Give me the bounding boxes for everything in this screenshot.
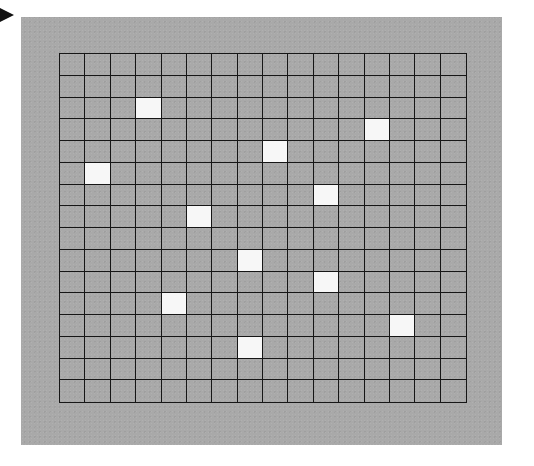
grid-cell — [85, 272, 110, 294]
grid-cell — [85, 228, 110, 250]
grid-cell — [365, 250, 390, 272]
grid-cell — [187, 250, 212, 272]
grid-cell — [288, 359, 313, 381]
grid-cell — [60, 380, 85, 402]
grid-cell — [111, 250, 136, 272]
arrow-right-icon — [0, 8, 14, 22]
grid-cell — [390, 250, 415, 272]
grid-cell — [238, 206, 263, 228]
grid-cell — [288, 141, 313, 163]
grid-cell — [111, 98, 136, 120]
grid-cell — [187, 141, 212, 163]
grid-cell-lit — [238, 337, 263, 359]
grid-cell — [238, 228, 263, 250]
grid-cell — [339, 119, 364, 141]
grid-cell — [162, 359, 187, 381]
grid-cell — [339, 185, 364, 207]
grid-cell — [314, 228, 339, 250]
grid-cell — [111, 272, 136, 294]
grid-cell — [136, 228, 161, 250]
grid-cell — [212, 54, 237, 76]
grid-cell — [314, 119, 339, 141]
grid-cell — [85, 337, 110, 359]
grid-cell — [162, 185, 187, 207]
grid-cell — [415, 228, 440, 250]
grid-cell — [365, 337, 390, 359]
grid-cell — [339, 54, 364, 76]
grid-cell — [415, 272, 440, 294]
grid-cell — [288, 163, 313, 185]
grid-cell — [441, 272, 466, 294]
grid-cell — [136, 141, 161, 163]
grid-cell — [60, 185, 85, 207]
grid-cell — [187, 337, 212, 359]
grid-cell — [288, 293, 313, 315]
grid-cell — [288, 54, 313, 76]
grid-cell — [288, 228, 313, 250]
grid-cell — [111, 337, 136, 359]
grid-cell — [390, 337, 415, 359]
grid-cell — [162, 206, 187, 228]
grid-cell — [212, 163, 237, 185]
grid-cell — [238, 315, 263, 337]
grid-cell — [60, 119, 85, 141]
grid-cell — [85, 293, 110, 315]
grid-cell — [187, 228, 212, 250]
grid-cell — [441, 359, 466, 381]
grid-cell — [288, 98, 313, 120]
grid-cell — [314, 315, 339, 337]
grid-cell-lit — [238, 250, 263, 272]
grid-cell — [187, 76, 212, 98]
grid-cell — [314, 337, 339, 359]
grid-cell — [263, 206, 288, 228]
grid-cell — [339, 76, 364, 98]
grid-cell — [314, 206, 339, 228]
grid-cell — [415, 359, 440, 381]
grid-cell — [238, 380, 263, 402]
grid-cell — [365, 163, 390, 185]
grid-cell — [238, 119, 263, 141]
grid-cell — [415, 206, 440, 228]
grid-cell — [288, 119, 313, 141]
grid-cell — [238, 293, 263, 315]
grid-cell — [441, 293, 466, 315]
grid-cell — [212, 206, 237, 228]
grid-cell — [111, 119, 136, 141]
grid-cell — [263, 272, 288, 294]
grid-cell — [187, 315, 212, 337]
grid-cell — [288, 76, 313, 98]
grid-cell — [314, 293, 339, 315]
grid-cell — [314, 76, 339, 98]
grid-cell — [390, 185, 415, 207]
grid-cell — [136, 250, 161, 272]
grid-cell — [212, 98, 237, 120]
grid-cell — [162, 141, 187, 163]
grid-cell — [111, 141, 136, 163]
grid-cell — [415, 337, 440, 359]
grid-cell — [339, 272, 364, 294]
grid-cell — [111, 76, 136, 98]
grid-cell-lit — [162, 293, 187, 315]
grid-cell — [162, 272, 187, 294]
grid-cell — [339, 337, 364, 359]
grid-cell — [85, 98, 110, 120]
grid-cell — [136, 359, 161, 381]
grid-cell — [263, 337, 288, 359]
grid-cell — [288, 272, 313, 294]
grid-cell — [187, 359, 212, 381]
grid-cell — [415, 163, 440, 185]
grid-cell — [162, 250, 187, 272]
grid-cell — [85, 54, 110, 76]
grid-cell — [136, 163, 161, 185]
grid-cell — [136, 119, 161, 141]
grid-cell-lit — [314, 272, 339, 294]
grid-cell — [390, 76, 415, 98]
grid-cell — [238, 141, 263, 163]
grid-cell — [441, 380, 466, 402]
grid-cell — [136, 54, 161, 76]
grid-cell — [365, 228, 390, 250]
grid-cell — [415, 76, 440, 98]
grid-cell — [60, 293, 85, 315]
grid-cell-lit — [314, 185, 339, 207]
grid-cell — [415, 315, 440, 337]
